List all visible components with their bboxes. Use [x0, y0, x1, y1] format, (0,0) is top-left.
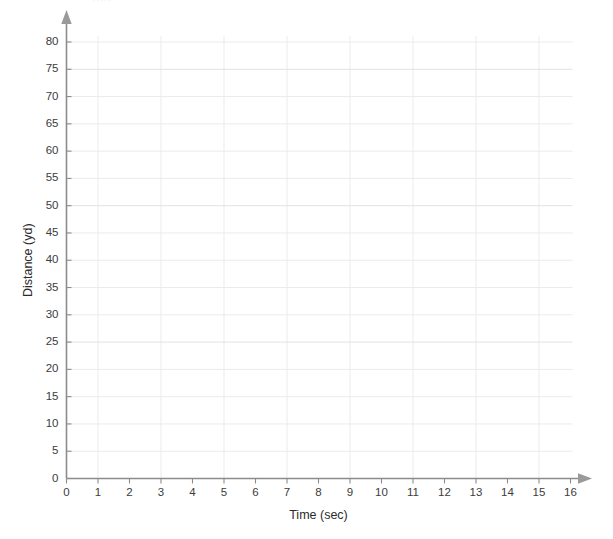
y-tick-label: 65	[46, 117, 59, 129]
x-tick-label: 1	[95, 486, 101, 498]
x-tick-label: 12	[438, 486, 451, 498]
axes	[61, 10, 592, 484]
y-tick-label: 5	[52, 444, 58, 456]
grid-lines	[67, 36, 573, 479]
x-tick-label: 7	[284, 486, 290, 498]
y-tick-label: 80	[46, 35, 59, 47]
y-axis-arrowhead	[61, 10, 71, 24]
x-tick-label: 16	[564, 486, 577, 498]
y-tick-label: 15	[46, 390, 59, 402]
y-tick-label: 25	[46, 335, 59, 347]
x-axis-tick-labels: 012345678910111213141516	[63, 486, 577, 498]
x-tick-label: 6	[252, 486, 258, 498]
x-tick-label: 3	[158, 486, 164, 498]
vertical-gridlines	[98, 36, 539, 479]
y-tick-label: 35	[46, 281, 59, 293]
y-tick-label: 10	[46, 417, 59, 429]
y-tick-label: 20	[46, 362, 59, 374]
x-tick-label: 10	[375, 486, 388, 498]
x-tick-label: 2	[126, 486, 132, 498]
y-tick-label: 30	[46, 308, 59, 320]
y-tick-label: 0	[52, 472, 58, 484]
x-tick-label: 4	[189, 486, 196, 498]
y-tick-label: 50	[46, 199, 59, 211]
x-axis-title: Time (sec)	[289, 508, 348, 522]
x-tick-label: 8	[315, 486, 321, 498]
y-tick-label: 70	[46, 90, 59, 102]
x-tick-label: 11	[407, 486, 419, 498]
coordinate-grid-plot: 05101520253035404550556065707580 0123456…	[0, 0, 613, 539]
y-tick-label: 40	[46, 253, 59, 265]
x-tick-label: 14	[501, 486, 514, 498]
y-tick-label: 45	[46, 226, 59, 238]
x-tick-label: 15	[533, 486, 546, 498]
chart-container: ····· 05101520253035404550556065707580 0…	[0, 0, 613, 539]
x-tick-label: 13	[470, 486, 483, 498]
y-axis-tick-labels: 05101520253035404550556065707580	[46, 35, 59, 484]
y-axis-title: Distance (yd)	[21, 223, 35, 297]
x-tick-label: 9	[347, 486, 353, 498]
y-tick-label: 55	[46, 171, 59, 183]
x-axis-arrowhead	[578, 473, 592, 483]
y-tick-label: 60	[46, 144, 59, 156]
x-tick-label: 5	[221, 486, 227, 498]
x-tick-label: 0	[63, 486, 69, 498]
y-tick-label: 75	[46, 62, 59, 74]
horizontal-gridlines	[67, 42, 573, 451]
